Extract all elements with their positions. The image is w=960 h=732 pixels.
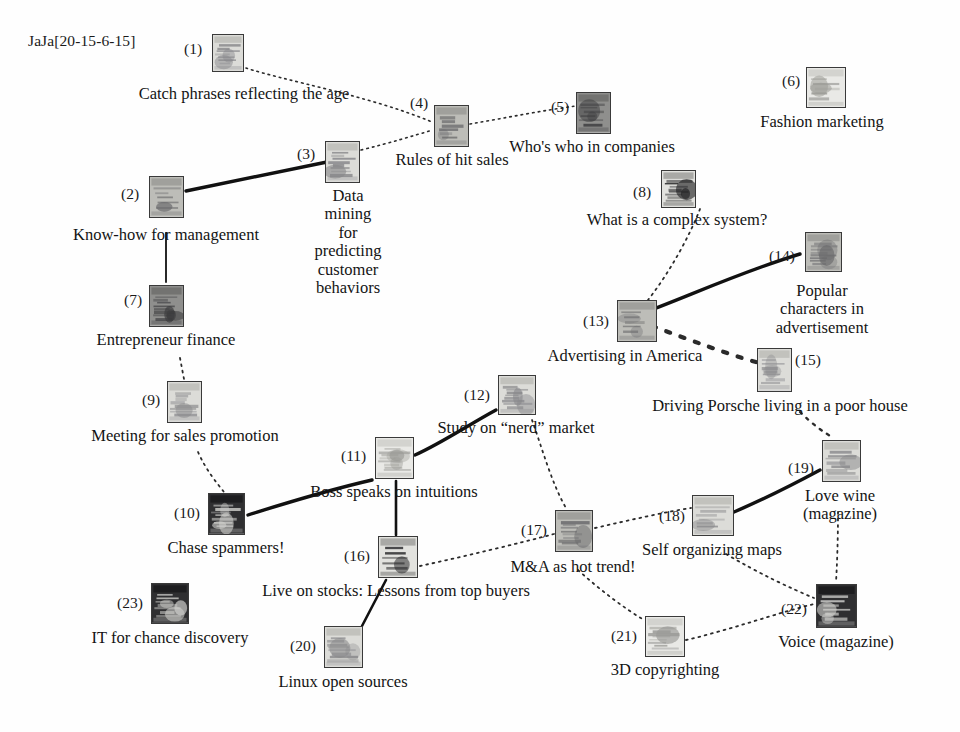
node-caption-line: Chase spammers! — [168, 539, 285, 557]
node-index-label: (5) — [551, 99, 569, 115]
book-thumbnail[interactable] — [645, 616, 685, 657]
book-thumbnail[interactable] — [806, 67, 846, 108]
node-index-label: (23) — [117, 595, 143, 611]
node-index-label: (8) — [633, 184, 651, 200]
edge-17-21 — [578, 570, 644, 620]
node-caption-line: Popular characters in — [776, 282, 869, 319]
node-caption-line: Love wine — [803, 487, 877, 505]
node-caption-line: Entrepreneur finance — [97, 331, 236, 349]
node-index-label: (7) — [124, 292, 142, 308]
thumbnail-texture — [209, 494, 244, 534]
edge-15-19 — [800, 412, 834, 438]
node-caption-line: Linux open sources — [278, 673, 407, 691]
thumbnail-texture — [213, 35, 243, 71]
node-index-label: (21) — [611, 628, 637, 644]
book-thumbnail[interactable] — [151, 583, 189, 624]
node-index-label: (3) — [297, 146, 315, 162]
thumbnail-texture — [499, 376, 535, 414]
node-caption-line: Meeting for sales promotion — [91, 427, 278, 445]
node-caption: Driving Porsche living in a poor house — [652, 397, 908, 415]
node-caption: Chase spammers! — [168, 539, 285, 557]
book-thumbnail[interactable] — [325, 141, 360, 183]
node-caption-line: M&A as hot trend! — [510, 558, 635, 576]
node-caption: Self organizing maps — [642, 541, 782, 559]
thumbnail-texture — [435, 106, 468, 146]
book-thumbnail[interactable] — [805, 232, 842, 272]
node-caption: Study on “nerd” market — [437, 419, 594, 437]
node-caption: What is a complex system? — [587, 211, 768, 229]
book-thumbnail[interactable] — [167, 381, 202, 423]
node-caption-line: Fashion marketing — [760, 113, 883, 131]
book-thumbnail[interactable] — [692, 495, 734, 536]
book-thumbnail[interactable] — [822, 440, 861, 482]
node-caption-line: (magazine) — [803, 505, 877, 523]
node-index-label: (10) — [174, 505, 200, 521]
node-caption: Data mining for predictingcustomer behav… — [315, 187, 382, 298]
diagram-header-label: JaJa[20-15-6-15] — [28, 32, 135, 50]
node-caption: Voice (magazine) — [778, 633, 894, 651]
thumbnail-texture — [168, 382, 201, 422]
book-thumbnail[interactable] — [757, 348, 792, 392]
book-thumbnail[interactable] — [555, 510, 593, 552]
book-thumbnail[interactable] — [576, 92, 611, 134]
thumbnail-texture — [817, 585, 856, 627]
node-index-label: (20) — [290, 638, 316, 654]
book-thumbnail[interactable] — [208, 493, 245, 535]
edge-2-3 — [186, 162, 327, 191]
node-index-label: (9) — [142, 392, 160, 408]
node-caption-line: What is a complex system? — [587, 211, 768, 229]
node-caption-line: Advertising in America — [548, 347, 703, 365]
node-caption-line: Boss speaks on intuitions — [310, 483, 477, 501]
thumbnail-texture — [577, 93, 610, 133]
book-thumbnail[interactable] — [816, 584, 857, 628]
node-index-label: (11) — [341, 448, 366, 464]
book-network-diagram: JaJa[20-15-6-15] (1)Catch phrases reflec… — [0, 0, 960, 732]
thumbnail-texture — [376, 438, 413, 478]
book-thumbnail[interactable] — [498, 375, 536, 415]
thumbnail-texture — [150, 286, 183, 326]
thumbnail-texture — [325, 627, 362, 667]
edge-3-4 — [361, 130, 433, 150]
node-caption: Advertising in America — [548, 347, 703, 365]
node-index-label: (1) — [184, 41, 202, 57]
thumbnail-texture — [150, 177, 183, 217]
edge-9-10 — [198, 452, 224, 492]
node-index-label: (17) — [521, 522, 547, 538]
node-index-label: (12) — [464, 387, 490, 403]
node-caption-line: IT for chance discovery — [92, 629, 249, 647]
node-caption: Love wine(magazine) — [803, 487, 877, 524]
thumbnail-texture — [662, 171, 695, 207]
thumbnail-texture — [556, 511, 592, 551]
node-caption: M&A as hot trend! — [510, 558, 635, 576]
node-index-label: (4) — [410, 95, 428, 111]
book-thumbnail[interactable] — [434, 105, 469, 147]
book-thumbnail[interactable] — [378, 536, 418, 578]
thumbnail-texture — [618, 301, 656, 341]
node-caption: Linux open sources — [278, 673, 407, 691]
node-index-label: (18) — [659, 508, 685, 524]
book-thumbnail[interactable] — [617, 300, 657, 342]
thumbnail-texture — [646, 617, 684, 656]
thumbnail-texture — [379, 537, 417, 577]
node-caption-line: Catch phrases reflecting the age — [139, 85, 350, 103]
book-thumbnail[interactable] — [375, 437, 414, 479]
thumbnail-texture — [758, 349, 791, 390]
node-caption-line: Live on stocks: Lessons from top buyers — [262, 582, 530, 600]
book-thumbnail[interactable] — [661, 170, 696, 208]
node-caption: Meeting for sales promotion — [91, 427, 278, 445]
node-caption: Catch phrases reflecting the age — [139, 85, 350, 103]
node-caption: Popular characters inadvertisement — [776, 282, 869, 337]
book-thumbnail[interactable] — [212, 34, 244, 72]
book-thumbnail[interactable] — [324, 626, 363, 668]
node-index-label: (2) — [121, 186, 139, 202]
book-thumbnail[interactable] — [149, 176, 184, 218]
node-index-label: (19) — [788, 460, 814, 476]
node-caption: Who's who in companies — [509, 138, 675, 156]
node-caption: Know-how for management — [73, 226, 259, 244]
node-caption: Live on stocks: Lessons from top buyers — [262, 582, 530, 600]
thumbnail-texture — [152, 584, 188, 623]
node-index-label: (13) — [583, 313, 609, 329]
thumbnail-texture — [326, 142, 359, 182]
book-thumbnail[interactable] — [149, 285, 184, 327]
node-caption-line: Study on “nerd” market — [437, 419, 594, 437]
